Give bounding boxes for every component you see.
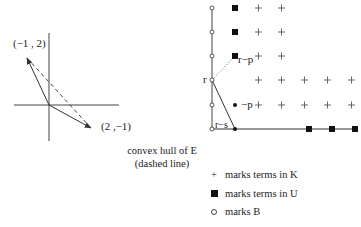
vector-2-neg1 [49,105,91,128]
legend-label-u: marks terms in U [225,189,298,200]
label-vector-2-neg1: (2 ,−1) [101,121,131,132]
circle-icon [208,207,220,218]
u-points [232,5,358,132]
legend-item-u: marks terms in U [208,189,298,200]
convex-hull-caption: convex hull of E (dashed line) [116,144,208,170]
right-figure [210,5,358,133]
legend-item-b: marks B [208,207,260,218]
label-r-minus-s: r−s [215,120,228,130]
plus-icon: + [208,170,220,181]
vector-neg1-2 [27,58,49,105]
point-s [233,127,237,131]
k-points [255,5,355,109]
caption-line-1: convex hull of E [116,144,208,157]
legend-label-b: marks B [225,207,260,218]
legend-label-k: marks terms in K [225,170,298,181]
caption-line-2: (dashed line) [116,157,208,170]
point-minus-p [233,103,237,107]
label-vector-neg1-2: (−1 , 2) [13,38,46,49]
label-r: r [203,74,207,85]
square-icon [208,189,220,200]
label-r-minus-p: r−p [238,54,253,65]
dotted-r-to-r-minus-p [212,58,233,80]
label-minus-p: −p [241,99,253,110]
diagram-canvas [0,0,361,227]
convex-hull-dashed-line [27,58,91,128]
legend-item-k: + marks terms in K [208,170,298,181]
